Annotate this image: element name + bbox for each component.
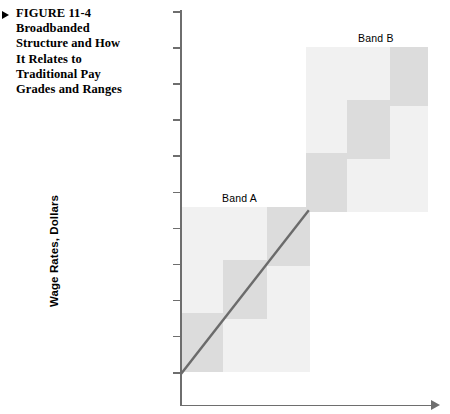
x-axis-arrow-icon [431, 400, 440, 410]
pay-grade-rect [223, 260, 267, 319]
pay-grade-rect [267, 207, 310, 266]
y-axis-tick [173, 11, 181, 13]
y-axis-tick [173, 228, 181, 230]
pay-grade-rect [390, 47, 428, 106]
y-axis-tick [173, 192, 181, 194]
y-axis-tick [173, 264, 181, 266]
y-axis-title: Wage Rates, Dollars [48, 176, 60, 326]
band-label: Band A [222, 192, 257, 204]
pay-grade-rect [182, 313, 223, 372]
y-axis-tick [173, 155, 181, 157]
y-axis-tick [173, 83, 181, 85]
x-axis-line [180, 405, 432, 407]
band-label: Band B [358, 32, 394, 44]
figure-page: FIGURE 11-4BroadbandedStructure and HowI… [0, 0, 450, 414]
y-axis-tick [173, 119, 181, 121]
y-axis-tick [173, 300, 181, 302]
y-axis-tick [173, 336, 181, 338]
y-axis-tick [173, 372, 181, 374]
pay-grade-rect [347, 100, 390, 159]
chart-plot-area: Band ABand B Wage Rates, Dollars [0, 0, 450, 414]
y-axis-tick [173, 47, 181, 49]
pay-grade-rect [306, 153, 347, 212]
